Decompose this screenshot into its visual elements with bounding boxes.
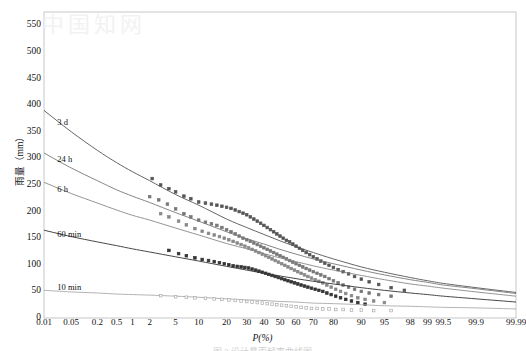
point-6-h [280, 262, 283, 265]
point-60-min [322, 290, 325, 293]
point-24-h [332, 279, 335, 282]
point-24-h [390, 295, 393, 298]
y-axis-tick-labels: 050100150200250300350400450500550 [10, 0, 41, 320]
point-60-min [280, 277, 283, 280]
point-3-d [295, 245, 298, 248]
point-3-d [282, 237, 285, 240]
x-axis-tick-labels: 0.010.050.20.512510203040506070809095989… [0, 318, 525, 332]
point-6-h [168, 216, 171, 219]
point-10-min [240, 300, 243, 303]
point-3-d [256, 220, 259, 223]
x-tick-50: 50 [276, 318, 285, 327]
point-60-min [194, 257, 197, 260]
point-60-min [258, 270, 261, 273]
point-24-h [269, 250, 272, 253]
point-6-h [268, 256, 271, 259]
point-60-min [207, 259, 210, 262]
point-3-d [238, 210, 241, 213]
point-60-min [223, 262, 226, 265]
point-60-min [177, 252, 180, 255]
point-3-d [253, 218, 256, 221]
point-3-d [377, 283, 380, 286]
point-60-min [201, 258, 204, 261]
point-24-h [221, 226, 224, 229]
point-60-min [213, 260, 216, 263]
point-24-h [245, 238, 248, 241]
point-3-d [168, 187, 171, 190]
point-24-h [216, 224, 219, 227]
point-24-h [263, 246, 266, 249]
point-10-min [245, 300, 248, 303]
y-tick-300: 300 [15, 153, 41, 163]
curve-label-24-h: 24 h [57, 155, 72, 164]
point-10-min [276, 303, 279, 306]
point-60-min [264, 272, 267, 275]
point-10-min [204, 297, 207, 300]
x-tick-99-5: 99.5 [436, 318, 452, 327]
point-6-h [330, 286, 333, 289]
x-tick-99-9: 99.9 [468, 318, 484, 327]
point-24-h [312, 270, 315, 273]
point-60-min [271, 274, 274, 277]
point-3-d [328, 264, 331, 267]
point-24-h [253, 242, 256, 245]
x-tick-80: 80 [329, 318, 338, 327]
figure-caption: 图 3 设计暴雨频率曲线图 [0, 345, 525, 351]
x-tick-5: 5 [173, 318, 178, 327]
point-3-d [221, 205, 224, 208]
point-60-min [307, 286, 310, 289]
y-tick-550: 550 [15, 20, 41, 30]
point-24-h [157, 199, 160, 202]
point-60-min [290, 281, 293, 284]
point-24-h [368, 292, 371, 295]
point-3-d [197, 201, 200, 204]
point-6-h [232, 240, 235, 243]
point-6-h [254, 250, 257, 253]
point-60-min [334, 295, 337, 298]
point-24-h [266, 248, 269, 251]
point-6-h [307, 275, 310, 278]
y-tick-350: 350 [15, 127, 41, 137]
point-6-h [293, 269, 296, 272]
point-24-h [225, 228, 228, 231]
point-3-d [279, 235, 282, 238]
point-60-min [185, 254, 188, 257]
point-3-d [151, 177, 154, 180]
series-10-min [44, 290, 516, 312]
point-6-h [283, 264, 286, 267]
point-10-min [334, 308, 337, 311]
x-tick-2: 2 [147, 318, 152, 327]
curve-24-h [44, 153, 516, 293]
point-10-min [266, 302, 269, 305]
point-24-h [301, 266, 304, 269]
point-3-d [234, 209, 237, 212]
point-10-min [185, 296, 188, 299]
point-6-h [159, 212, 162, 215]
point-24-h [276, 253, 279, 256]
x-tick-60: 60 [292, 318, 301, 327]
point-24-h [377, 293, 380, 296]
y-tick-200: 200 [15, 207, 41, 217]
point-6-h [357, 296, 360, 299]
x-tick-1: 1 [130, 318, 135, 327]
point-24-h [256, 243, 259, 246]
point-3-d [230, 207, 233, 210]
point-60-min [314, 288, 317, 291]
point-3-d [174, 191, 177, 194]
point-10-min [328, 308, 331, 311]
x-axis-label: P(%) [0, 333, 525, 343]
point-3-d [259, 222, 262, 225]
point-6-h [218, 235, 221, 238]
point-24-h [328, 277, 331, 280]
x-tick-40: 40 [259, 318, 268, 327]
point-60-min [310, 287, 313, 290]
curve-label-6-h: 6 h [57, 185, 68, 194]
point-6-h [314, 278, 317, 281]
x-tick-70: 70 [309, 318, 318, 327]
point-60-min [293, 282, 296, 285]
point-6-h [207, 232, 210, 235]
point-3-d [312, 256, 315, 259]
point-6-h [372, 300, 375, 303]
point-3-d [245, 213, 248, 216]
